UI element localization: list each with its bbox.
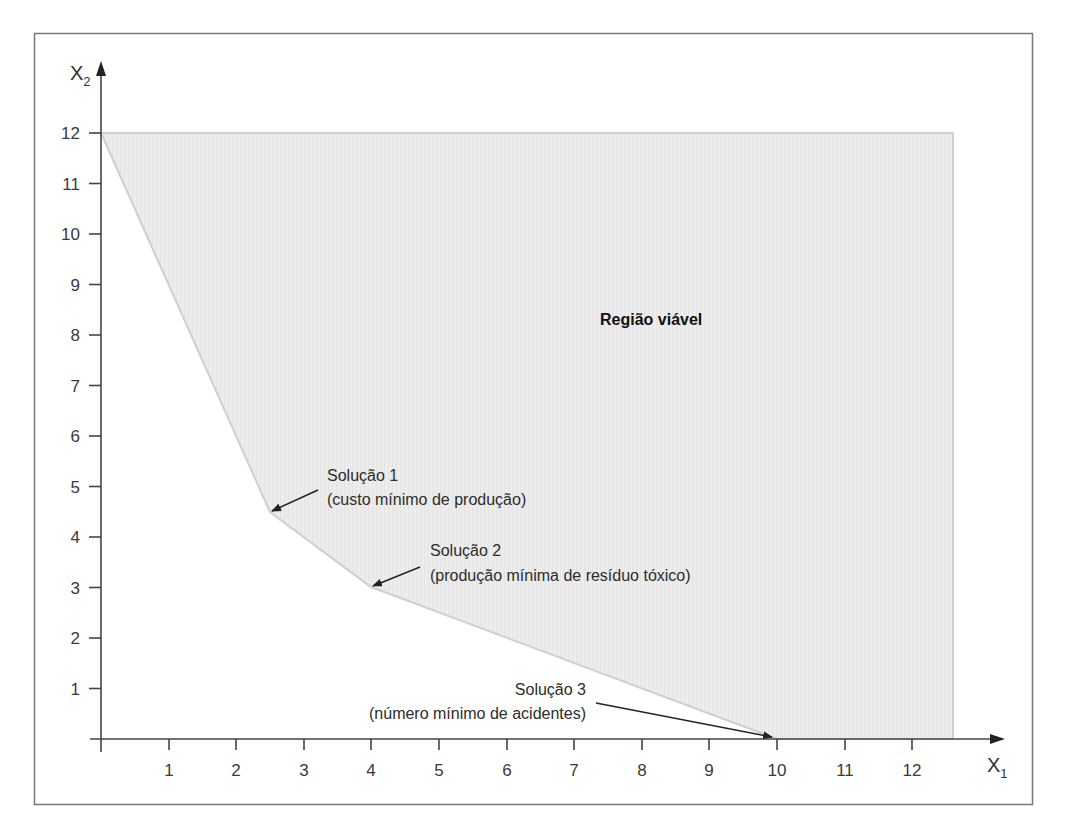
svg-text:8: 8 bbox=[637, 761, 646, 780]
svg-text:10: 10 bbox=[768, 761, 787, 780]
svg-text:2: 2 bbox=[71, 629, 80, 648]
chart-canvas: 1 2 3 4 5 6 7 8 9 10 11 12 1 2 3 4 5 6 7… bbox=[0, 0, 1068, 825]
region-label: Região viável bbox=[600, 311, 702, 328]
solution-2-title: Solução 2 bbox=[430, 542, 501, 559]
x-ticks bbox=[169, 739, 912, 750]
svg-text:6: 6 bbox=[71, 427, 80, 446]
svg-text:8: 8 bbox=[71, 326, 80, 345]
solution-2-desc: (produção mínima de resíduo tóxico) bbox=[430, 567, 691, 584]
svg-text:11: 11 bbox=[836, 761, 854, 780]
svg-text:7: 7 bbox=[569, 761, 578, 780]
x-tick-labels: 1 2 3 4 5 6 7 8 9 10 11 12 bbox=[164, 761, 921, 780]
svg-text:5: 5 bbox=[434, 761, 443, 780]
svg-text:3: 3 bbox=[71, 579, 80, 598]
y-ticks bbox=[89, 133, 101, 689]
svg-text:3: 3 bbox=[299, 761, 308, 780]
feasible-region bbox=[101, 133, 953, 739]
y-axis-arrow-icon bbox=[96, 61, 106, 76]
svg-text:2: 2 bbox=[231, 761, 240, 780]
svg-text:7: 7 bbox=[71, 377, 80, 396]
svg-text:1: 1 bbox=[164, 761, 173, 780]
svg-text:6: 6 bbox=[502, 761, 511, 780]
svg-text:1: 1 bbox=[71, 680, 80, 699]
svg-text:12: 12 bbox=[61, 124, 80, 143]
svg-text:12: 12 bbox=[903, 761, 922, 780]
solution-1-title: Solução 1 bbox=[327, 467, 398, 484]
solution-1-desc: (custo mínimo de produção) bbox=[327, 491, 526, 508]
svg-text:10: 10 bbox=[61, 225, 80, 244]
svg-text:4: 4 bbox=[71, 528, 80, 547]
x-axis-title: X1 bbox=[987, 754, 1008, 781]
x-axis-arrow-icon bbox=[990, 734, 1005, 744]
svg-text:11: 11 bbox=[62, 175, 80, 194]
svg-text:9: 9 bbox=[704, 761, 713, 780]
y-axis-title: X2 bbox=[70, 62, 91, 89]
solution-3-title: Solução 3 bbox=[515, 681, 586, 698]
svg-text:4: 4 bbox=[366, 761, 375, 780]
svg-text:9: 9 bbox=[71, 276, 80, 295]
solution-3-desc: (número mínimo de acidentes) bbox=[369, 705, 586, 722]
svg-text:5: 5 bbox=[71, 478, 80, 497]
y-tick-labels: 1 2 3 4 5 6 7 8 9 10 11 12 bbox=[61, 124, 80, 699]
